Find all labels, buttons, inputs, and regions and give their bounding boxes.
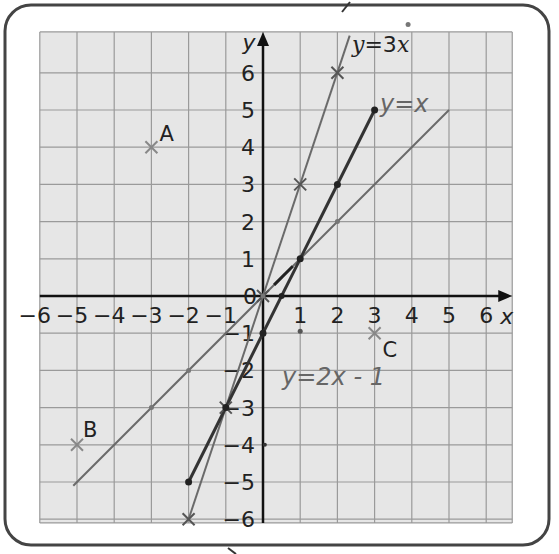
point-a-label: A [159,122,174,146]
coordinate-graph: −6−5−4−3−2−1123456654321−1−2−3−4−5−60yx … [0,0,559,554]
plotted-dot [406,22,411,27]
plotted-dot [222,404,229,411]
x-tick-label: −5 [56,303,88,328]
x-tick-label: 4 [405,303,419,328]
handwritten-label-y-2x-minus-1: y=2x - 1 [281,363,385,391]
x-tick-label: 1 [293,303,307,328]
x-tick-label: 2 [330,303,344,328]
plotted-dot [334,181,341,188]
plotted-dot [263,443,267,447]
x-tick-label: 5 [442,303,456,328]
y-tick-label: 4 [241,135,255,160]
x-tick-label: 6 [479,303,493,328]
point-b-label: B [83,418,97,442]
y-tick-label: −5 [223,470,255,495]
plotted-dot [298,329,303,334]
y-tick-label: −4 [223,433,255,458]
x-tick-label: −2 [167,303,199,328]
plotted-dot [260,330,267,337]
equation-label-y-3x: y=3x [351,32,410,57]
y-tick-label: 2 [241,210,255,235]
frame-mark [228,548,236,554]
plotted-dot [297,255,304,262]
graph-panel: −6−5−4−3−2−1123456654321−1−2−3−4−5−60yx … [0,0,559,554]
x-tick-label: −6 [19,303,51,328]
plotted-dot [371,107,378,114]
x-tick-label: −4 [93,303,125,328]
y-tick-label: 3 [241,172,255,197]
x-axis-label: x [499,304,514,329]
plotted-dot [261,294,266,299]
x-tick-label: 3 [368,303,382,328]
y-tick-label: 6 [241,61,255,86]
plotted-dot [149,405,154,410]
plotted-dot [186,368,191,373]
y-tick-label: −6 [223,507,255,532]
plotted-dot [279,293,285,299]
plotted-dot [185,479,192,486]
point-c-label: C [383,338,398,362]
plotted-dot [335,219,340,224]
y-axis-label: y [241,30,256,55]
handwritten-label-y-x: y=x [379,90,429,118]
y-tick-label: 1 [241,247,255,272]
x-tick-label: −3 [130,303,162,328]
y-tick-label: 5 [241,98,255,123]
